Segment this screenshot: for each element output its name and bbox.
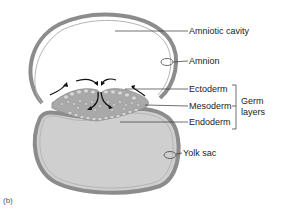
panel-label: (b)	[3, 196, 13, 205]
label-yolk-sac: Yolk sac	[183, 148, 216, 158]
label-amniotic-cavity: Amniotic cavity	[189, 26, 249, 36]
label-mesoderm: Mesoderm	[189, 101, 232, 111]
yolk-sac-shape	[35, 109, 179, 193]
amnion-shape	[30, 15, 176, 103]
label-ectoderm: Ectoderm	[189, 84, 228, 94]
label-germ-layers-line2: layers	[241, 107, 265, 117]
label-endoderm: Endoderm	[189, 117, 231, 127]
label-amnion: Amnion	[189, 56, 220, 66]
label-germ-layers-line1: Germ	[241, 96, 264, 106]
